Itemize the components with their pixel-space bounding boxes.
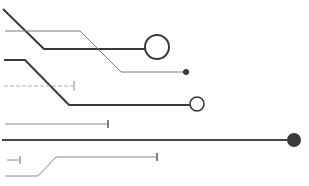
trace-tiny-tick — [7, 156, 20, 164]
circuit-traces — [0, 0, 309, 186]
filled-node-icon — [287, 133, 301, 147]
filled-node-icon — [183, 69, 189, 75]
trace-large-circle — [3, 9, 169, 59]
trace-long-dot — [2, 133, 301, 147]
trace-mid-tick — [5, 120, 108, 128]
circuit-graphic — [0, 0, 309, 186]
trace-bottom-bent — [5, 153, 157, 176]
open-node-icon — [145, 35, 169, 59]
trace-short-tick — [4, 81, 74, 91]
open-node-icon — [190, 97, 204, 111]
